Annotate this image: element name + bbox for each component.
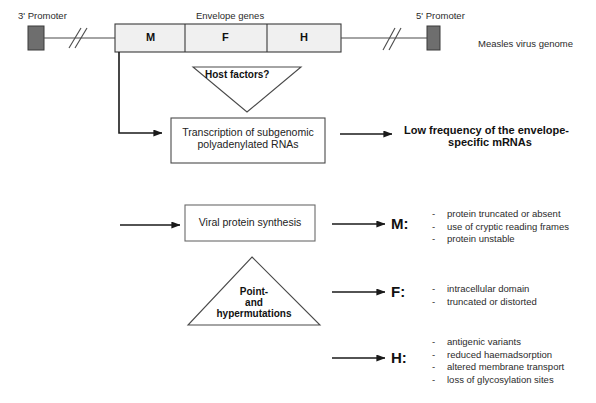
gene-label-h: H — [300, 31, 308, 44]
mutations-line-3: hypermutations — [194, 308, 314, 319]
list-item: - use of cryptic reading frames — [432, 221, 596, 234]
promoter-5-label: 5' Promoter — [416, 10, 465, 21]
list-item-label: intracellular domain — [447, 283, 529, 296]
list-item-label: antigenic variants — [447, 336, 521, 349]
protein-effects-h: - antigenic variants - reduced haemadsor… — [432, 336, 596, 386]
protein-effects-f: - intracellular domain - truncated or di… — [432, 283, 596, 308]
bullet-marker-icon: - — [432, 208, 438, 221]
list-item: - antigenic variants — [432, 336, 596, 349]
protein-key-h: H: — [391, 349, 407, 367]
list-item-label: altered membrane transport — [447, 361, 564, 374]
protein-key-m: M: — [391, 215, 409, 233]
promoter-3-label: 3' Promoter — [18, 10, 67, 21]
promoter-5-box — [427, 26, 440, 50]
break-mark-left-2 — [75, 28, 87, 48]
list-item: - truncated or distorted — [432, 296, 596, 309]
host-factors-label: Host factors? — [205, 69, 269, 81]
list-item-label: truncated or distorted — [447, 296, 537, 309]
mutations-line-2: and — [194, 297, 314, 308]
outcome-line-1: Low frequency of the envelope- — [404, 124, 596, 136]
outcome-line-2: specific mRNAs — [404, 136, 596, 148]
protein-effects-m: - protein truncated or absent - use of c… — [432, 208, 596, 246]
bullet-marker-icon: - — [432, 283, 438, 296]
break-mark-right-2 — [389, 28, 401, 50]
genome-to-transcription-connector — [119, 52, 162, 133]
transcription-box-text: Transcription of subgenomic polyadenylat… — [171, 126, 325, 150]
list-item: - reduced haemadsorption — [432, 349, 596, 362]
transcription-line-2: polyadenylated RNAs — [171, 138, 325, 150]
transcription-line-1: Transcription of subgenomic — [171, 126, 325, 138]
list-item: - intracellular domain — [432, 283, 596, 296]
mutations-line-1: Point- — [194, 286, 314, 297]
list-item: - protein unstable — [432, 233, 596, 246]
bullet-marker-icon: - — [432, 349, 438, 362]
list-item-label: protein unstable — [447, 233, 515, 246]
bullet-marker-icon: - — [432, 361, 438, 374]
protein-synthesis-label: Viral protein synthesis — [185, 216, 315, 228]
break-mark-left-1 — [69, 28, 81, 48]
bullet-marker-icon: - — [432, 221, 438, 234]
list-item: - altered membrane transport — [432, 361, 596, 374]
list-item: - protein truncated or absent — [432, 208, 596, 221]
protein-key-f: F: — [391, 283, 405, 301]
bullet-marker-icon: - — [432, 233, 438, 246]
list-item: - loss of glycosylation sites — [432, 374, 596, 387]
gene-label-m: M — [146, 31, 155, 44]
bullet-marker-icon: - — [432, 336, 438, 349]
list-item-label: protein truncated or absent — [447, 208, 561, 221]
break-mark-right-1 — [383, 28, 395, 50]
genome-caption: Measles virus genome — [478, 38, 573, 49]
bullet-marker-icon: - — [432, 296, 438, 309]
envelope-genes-label: Envelope genes — [196, 10, 264, 21]
bullet-marker-icon: - — [432, 374, 438, 387]
figure-canvas: 3' Promoter 5' Promoter Envelope genes M… — [0, 0, 596, 403]
list-item-label: loss of glycosylation sites — [447, 374, 554, 387]
list-item-label: reduced haemadsorption — [447, 349, 552, 362]
list-item-label: use of cryptic reading frames — [447, 221, 569, 234]
gene-label-f: F — [222, 31, 229, 44]
protein-synthesis-text: Viral protein synthesis — [185, 216, 315, 228]
mutations-triangle-text: Point- and hypermutations — [194, 286, 314, 319]
outcome-text: Low frequency of the envelope- specific … — [404, 124, 596, 148]
promoter-3-box — [28, 26, 44, 50]
